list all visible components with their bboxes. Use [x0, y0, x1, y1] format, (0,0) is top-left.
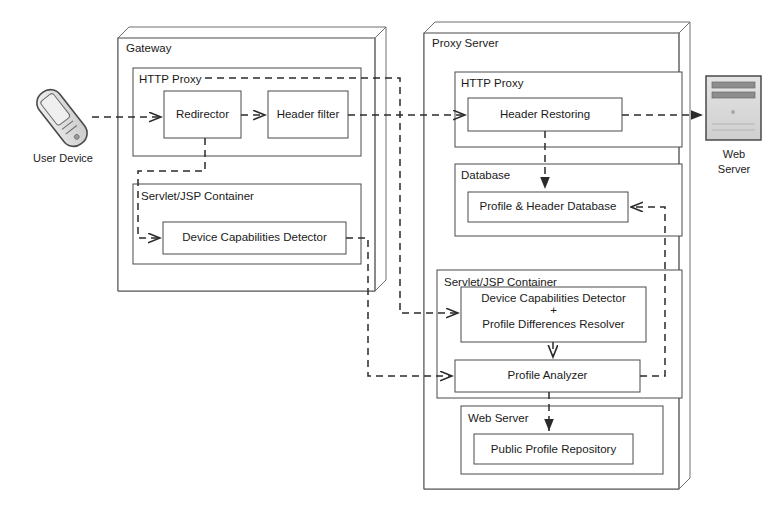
proxy-profile-analyzer-label: Profile Analyzer: [455, 369, 640, 382]
web-server-caption-line1: Web: [698, 148, 770, 161]
gateway-redirector-label: Redirector: [164, 108, 241, 121]
diagram-canvas: User Device Web Server Gateway HTTP Prox…: [0, 0, 780, 520]
user-device-caption: User Device: [22, 152, 104, 165]
gateway-title: Gateway: [126, 42, 171, 55]
gateway-header-filter-label: Header filter: [268, 108, 348, 121]
proxy-web-server-group-title: Web Server: [468, 412, 529, 425]
proxy-plus-sign-label: +: [461, 304, 646, 317]
web-server-icon: [706, 76, 761, 140]
proxy-header-restoring-label: Header Restoring: [468, 108, 622, 121]
proxy-servlet-container-title: Servlet/JSP Container: [444, 276, 557, 289]
diagram-vector-layer: [0, 0, 780, 520]
proxy-database-title: Database: [461, 169, 510, 182]
proxy-server-title: Proxy Server: [432, 37, 498, 50]
proxy-http-proxy-title: HTTP Proxy: [461, 77, 523, 90]
user-device-icon: [32, 85, 92, 151]
gateway-servlet-container-title: Servlet/JSP Container: [141, 190, 254, 203]
proxy-profile-header-database-label: Profile & Header Database: [468, 200, 628, 213]
proxy-public-profile-repository-label: Public Profile Repository: [474, 443, 633, 456]
proxy-profile-differences-resolver-label: Profile Differences Resolver: [461, 318, 646, 331]
web-server-caption-line2: Server: [698, 163, 770, 176]
gateway-http-proxy-title: HTTP Proxy: [139, 73, 201, 86]
gateway-device-capabilities-detector-label: Device Capabilities Detector: [163, 231, 346, 244]
